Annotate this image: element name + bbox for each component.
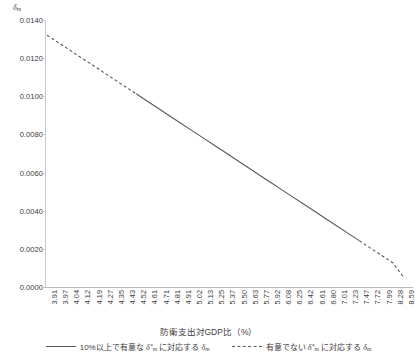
chart-container: δm 0.01400.01200.01000.00800.00600.00400… bbox=[0, 0, 417, 356]
series-line-dashed bbox=[359, 241, 404, 278]
x-tick-label: 8.59 bbox=[408, 290, 416, 304]
y-tick-label: 0.0000 bbox=[2, 283, 43, 292]
series-line-solid bbox=[136, 94, 359, 241]
x-tick-label: 4.61 bbox=[151, 290, 159, 304]
x-tick-label: 6.80 bbox=[330, 290, 338, 304]
x-tick-label: 5.50 bbox=[241, 290, 249, 304]
x-tick-label: 6.25 bbox=[296, 290, 304, 304]
legend-swatch-dashed bbox=[232, 346, 262, 347]
x-tick-label: 7.01 bbox=[341, 290, 349, 304]
x-tick-label: 4.43 bbox=[129, 290, 137, 304]
legend-label-significant: 10%以上で有意な δ*m に対応する δm bbox=[80, 341, 210, 352]
y-tick-mark bbox=[41, 249, 45, 250]
x-tick-label: 6.61 bbox=[319, 290, 327, 304]
x-tick-label: 5.13 bbox=[207, 290, 215, 304]
y-tick-label: 0.0080 bbox=[2, 130, 43, 139]
x-tick-label: 5.92 bbox=[274, 290, 282, 304]
x-tick-label: 5.63 bbox=[252, 290, 260, 304]
y-tick-label: 0.0100 bbox=[2, 92, 43, 101]
y-tick-label: 0.0060 bbox=[2, 168, 43, 177]
x-tick-label: 3.97 bbox=[62, 290, 70, 304]
y-tick-label: 0.0120 bbox=[2, 54, 43, 63]
x-tick-label: 5.25 bbox=[218, 290, 226, 304]
x-tick-label: 4.27 bbox=[107, 290, 115, 304]
legend-item-significant: 10%以上で有意な δ*m に対応する δm bbox=[46, 341, 210, 352]
y-axis-line bbox=[45, 20, 46, 288]
x-tick-label: 6.08 bbox=[285, 290, 293, 304]
y-tick-mark bbox=[41, 20, 45, 21]
x-tick-label: 4.35 bbox=[118, 290, 126, 304]
y-tick-mark bbox=[41, 58, 45, 59]
delta-m-symbol: δm bbox=[363, 343, 371, 352]
x-tick-label: 8.28 bbox=[397, 290, 405, 304]
x-tick-label: 7.99 bbox=[386, 290, 394, 304]
series-line-dashed bbox=[47, 35, 136, 94]
x-tick-label: 5.77 bbox=[263, 290, 271, 304]
x-tick-label: 4.52 bbox=[140, 290, 148, 304]
x-axis-ticks: 3.913.974.044.124.194.274.354.434.524.61… bbox=[45, 288, 413, 324]
x-tick-label: 4.19 bbox=[96, 290, 104, 304]
y-tick-mark bbox=[41, 134, 45, 135]
delta-star-m-symbol: δ*m bbox=[146, 343, 157, 352]
chart-legend: 10%以上で有意な δ*m に対応する δm 有意でない δ*m に対応する δ… bbox=[0, 341, 417, 352]
x-tick-label: 4.81 bbox=[174, 290, 182, 304]
x-tick-label: 5.02 bbox=[196, 290, 204, 304]
x-tick-label: 3.91 bbox=[51, 290, 59, 304]
x-tick-label: 7.23 bbox=[352, 290, 360, 304]
legend-swatch-solid bbox=[46, 346, 76, 347]
y-tick-mark bbox=[41, 211, 45, 212]
x-tick-label: 4.71 bbox=[163, 290, 171, 304]
x-tick-label: 7.47 bbox=[363, 290, 371, 304]
x-tick-label: 4.04 bbox=[73, 290, 81, 304]
x-tick-label: 4.12 bbox=[84, 290, 92, 304]
y-tick-mark bbox=[41, 96, 45, 97]
y-tick-label: 0.0140 bbox=[2, 16, 43, 25]
y-tick-label: 0.0020 bbox=[2, 244, 43, 253]
legend-item-nonsignificant: 有意でない δ*m に対応する δm bbox=[232, 341, 372, 352]
x-axis-title: 防衛支出対GDP比（%） bbox=[0, 325, 417, 337]
delta-m-symbol: δm bbox=[201, 343, 209, 352]
legend-label-nonsignificant: 有意でない δ*m に対応する δm bbox=[266, 341, 372, 352]
y-tick-mark bbox=[41, 173, 45, 174]
x-tick-label: 6.42 bbox=[307, 290, 315, 304]
x-tick-label: 5.37 bbox=[229, 290, 237, 304]
delta-star-m-symbol: δ*m bbox=[308, 343, 319, 352]
y-tick-mark bbox=[41, 287, 45, 288]
x-tick-label: 4.91 bbox=[185, 290, 193, 304]
y-tick-label: 0.0040 bbox=[2, 206, 43, 215]
y-axis-ticks: 0.01400.01200.01000.00800.00600.00400.00… bbox=[0, 0, 43, 356]
x-tick-label: 7.72 bbox=[374, 290, 382, 304]
